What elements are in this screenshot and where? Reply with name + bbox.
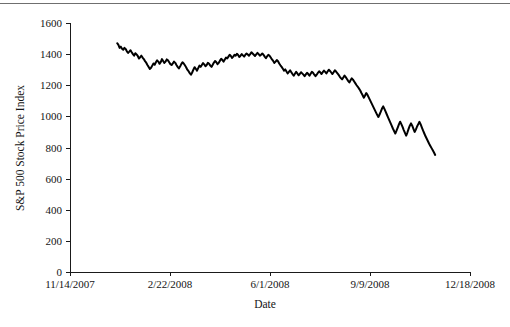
top-divider-rule <box>0 3 510 4</box>
sp500-series-line <box>117 43 435 155</box>
y-axis-tick-label: 1400 <box>40 48 63 60</box>
y-axis-title: S&P 500 Stock Price Index <box>14 85 26 211</box>
x-axis-title: Date <box>254 298 276 310</box>
y-axis-tick-label: 1000 <box>40 110 63 122</box>
sp500-line-chart: 02004006008001000120014001600 11/14/2007… <box>0 0 510 327</box>
x-axis-tick-label: 9/9/2008 <box>350 278 390 290</box>
y-axis-tick-label: 400 <box>46 204 63 216</box>
y-axis-tick-group <box>66 24 70 273</box>
x-axis-tick-label-group: 11/14/20072/22/20086/1/20089/9/200812/18… <box>45 278 495 290</box>
y-axis-tick-label: 0 <box>57 266 63 278</box>
y-axis-tick-label: 1600 <box>40 17 63 29</box>
x-axis-tick-label: 2/22/2008 <box>148 278 193 290</box>
x-axis-tick-label: 12/18/2008 <box>445 278 496 290</box>
y-axis-tick-label: 600 <box>46 173 63 185</box>
chart-figure: 02004006008001000120014001600 11/14/2007… <box>0 0 510 327</box>
y-axis-tick-label: 200 <box>46 235 63 247</box>
y-axis-tick-label: 800 <box>46 142 63 154</box>
x-axis-tick-label: 6/1/2008 <box>250 278 290 290</box>
y-axis-tick-label: 1200 <box>40 79 63 91</box>
y-axis-tick-label-group: 02004006008001000120014001600 <box>40 17 63 278</box>
x-axis-tick-label: 11/14/2007 <box>45 278 95 290</box>
